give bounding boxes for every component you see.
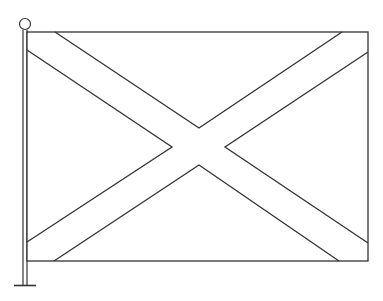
flag-border — [27, 32, 368, 261]
flag — [27, 32, 368, 261]
flag-illustration — [0, 0, 383, 301]
pole-finial — [20, 19, 31, 30]
